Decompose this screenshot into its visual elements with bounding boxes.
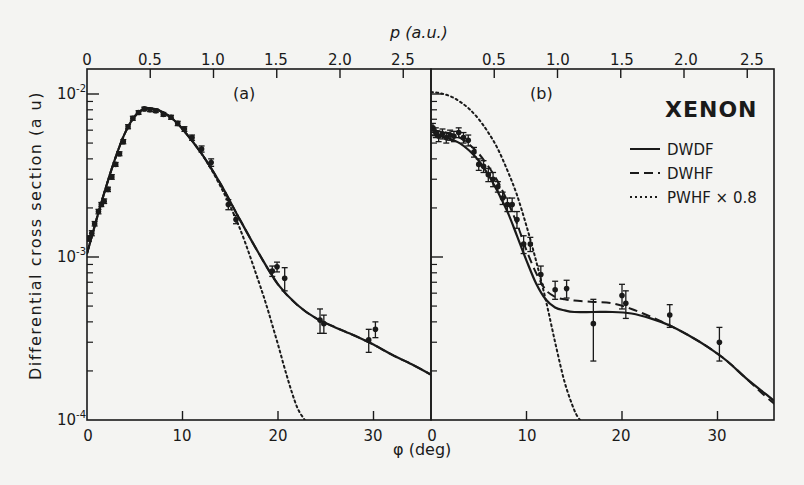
p-tick-b-1.5: 1.5 (610, 51, 634, 69)
legend-label-dwdf: DWDF (667, 141, 714, 159)
p-tick-a-1.5: 1.5 (264, 51, 288, 69)
plot-frame-a (87, 69, 431, 420)
x-tick-a-30: 30 (363, 427, 382, 445)
panel-label-b: (b) (530, 84, 553, 103)
x-tick-a-10: 10 (172, 427, 191, 445)
p-tick-a-1.0: 1.0 (201, 51, 225, 69)
p-tick-b-0.5: 0.5 (482, 51, 506, 69)
legend-label-dwhf: DWHF (667, 165, 713, 183)
p-tick-labels-a: 0 0.5 1.0 1.5 2.0 2.5 (82, 51, 415, 69)
x-tick-b-10: 10 (517, 427, 536, 445)
x-tick-b-20: 20 (611, 427, 630, 445)
bottom-axis-title: φ (deg) (393, 440, 451, 459)
p-tick-labels-b: 0.5 1.0 1.5 2.0 2.5 (482, 51, 764, 69)
top-axis-title: p (a.u.) (389, 23, 448, 42)
x-tick-a-0: 0 (83, 427, 93, 445)
p-tick-a-0.5: 0.5 (138, 51, 162, 69)
legend: DWDF DWHF PWHF × 0.8 (630, 141, 757, 207)
x-tick-labels-b: 0 10 20 30 (427, 427, 726, 445)
y-tick-1e-3: 10-3 (57, 246, 86, 266)
curve-dwhf-a (87, 108, 431, 374)
y-tick-1e-2: 10-2 (57, 83, 86, 103)
experiment-points-b (430, 123, 722, 361)
p-tick-a-0: 0 (82, 51, 92, 69)
data-points (86, 106, 723, 361)
experiment-points-a (86, 106, 379, 352)
y-tick-1e-4: 10-4 (57, 409, 86, 429)
x-tick-a-20: 20 (268, 427, 287, 445)
curve-dwdf-b (431, 135, 775, 401)
p-tick-b-2.5: 2.5 (740, 51, 764, 69)
x-tick-b-30: 30 (707, 427, 726, 445)
panel-label-a: (a) (233, 84, 255, 103)
curve-dwhf-b (431, 130, 775, 404)
y-axis-title: Differential cross section (a u) (26, 91, 45, 380)
y-tick-labels: 10-2 10-3 10-4 (57, 83, 86, 429)
element-title: XENON (665, 97, 758, 122)
x-tick-b-0: 0 (427, 427, 437, 445)
legend-label-pwhf: PWHF × 0.8 (667, 189, 757, 207)
x-tick-labels-a: 0 10 20 30 (83, 427, 382, 445)
p-tick-a-2.5: 2.5 (391, 51, 415, 69)
curve-dwdf-a (87, 108, 431, 374)
p-tick-b-2.0: 2.0 (674, 51, 698, 69)
p-tick-a-2.0: 2.0 (328, 51, 352, 69)
p-tick-b-1.0: 1.0 (546, 51, 570, 69)
chart-canvas: p (a.u.) φ (deg) Differential cross sect… (0, 0, 804, 485)
